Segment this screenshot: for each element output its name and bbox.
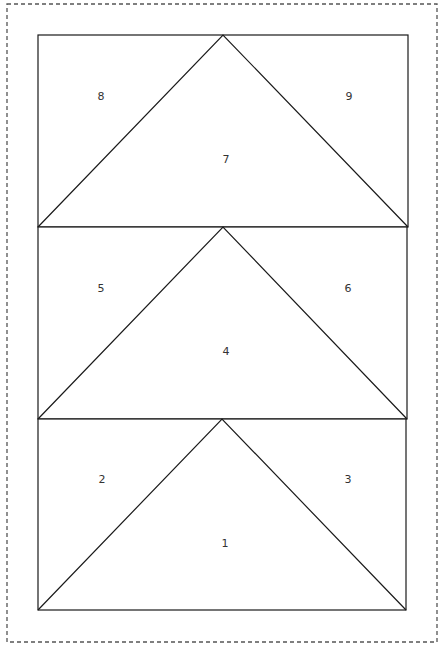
- piece-number-label-1: 1: [222, 537, 229, 550]
- quilt-template-diagram: 897564231: [0, 0, 440, 645]
- top-unit: 897: [38, 35, 408, 227]
- piece-number-label-3: 3: [345, 473, 352, 486]
- unit-rectangle: [38, 419, 406, 610]
- piece-number-label-6: 6: [345, 282, 352, 295]
- units-group: 897564231: [38, 35, 408, 610]
- bottom-unit: 231: [38, 419, 406, 610]
- piece-number-label-7: 7: [223, 153, 230, 166]
- piece-number-label-8: 8: [98, 90, 105, 103]
- unit-rectangle: [38, 35, 408, 227]
- piece-number-label-5: 5: [98, 282, 105, 295]
- unit-rectangle: [38, 227, 407, 419]
- piece-number-label-4: 4: [223, 345, 230, 358]
- middle-unit: 564: [38, 227, 407, 419]
- piece-number-label-2: 2: [99, 473, 106, 486]
- piece-number-label-9: 9: [346, 90, 353, 103]
